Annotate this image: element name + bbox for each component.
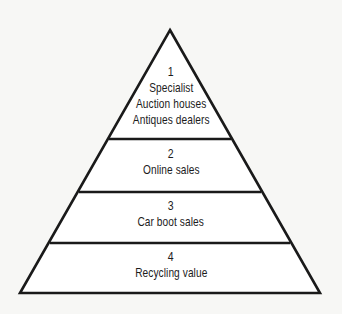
tier-1-line-1: Specialist (0, 80, 342, 96)
tier-4-number: 4 (0, 249, 342, 265)
tier-4-line-1: Recycling value (0, 265, 342, 281)
tier-1-number: 1 (0, 64, 342, 80)
tier-2-number: 2 (0, 146, 342, 162)
tier-3-line-1: Car boot sales (0, 214, 342, 230)
tier-2-line-1: Online sales (0, 162, 342, 178)
tier-1-line-3: Antiques dealers (0, 112, 342, 128)
tier-1-line-2: Auction houses (0, 96, 342, 112)
pyramid-diagram: 1 Specialist Auction houses Antiques dea… (0, 0, 342, 314)
tier-3-number: 3 (0, 198, 342, 214)
